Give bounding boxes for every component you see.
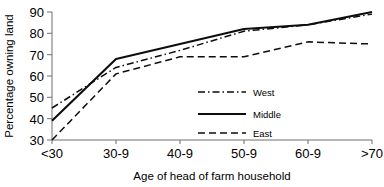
chart-figure: 30 40 50 60 70 80 90 <30 30-9 40-9 50-9 … xyxy=(0,0,384,187)
y-tick-label: 90 xyxy=(30,5,44,20)
series-line-west xyxy=(52,14,372,108)
x-tick-label: <30 xyxy=(41,146,63,161)
series-line-east xyxy=(52,42,372,140)
series-line-middle xyxy=(52,12,372,121)
x-tick-label: >70 xyxy=(361,146,383,161)
x-tick-label: 50-9 xyxy=(231,146,257,161)
x-tick-marks xyxy=(52,140,372,144)
y-tick-label: 50 xyxy=(30,90,44,105)
legend-label-east: East xyxy=(253,128,272,139)
x-tick-labels: <30 30-9 40-9 50-9 60-9 >70 xyxy=(41,146,383,161)
legend-label-middle: Middle xyxy=(253,109,281,120)
y-axis-title: Percentage owning land xyxy=(3,14,15,137)
series-group xyxy=(52,12,372,140)
y-tick-label: 40 xyxy=(30,112,44,127)
x-tick-label: 30-9 xyxy=(103,146,129,161)
y-tick-labels: 30 40 50 60 70 80 90 xyxy=(30,5,44,148)
y-tick-label: 60 xyxy=(30,69,44,84)
x-tick-label: 40-9 xyxy=(167,146,193,161)
y-tick-label: 70 xyxy=(30,48,44,63)
y-tick-label: 80 xyxy=(30,26,44,41)
x-axis-title: Age of head of farm household xyxy=(133,170,290,182)
legend-label-west: West xyxy=(253,87,275,98)
y-tick-marks xyxy=(47,12,52,140)
x-tick-label: 60-9 xyxy=(295,146,321,161)
line-chart: 30 40 50 60 70 80 90 <30 30-9 40-9 50-9 … xyxy=(0,0,384,187)
chart-legend: West Middle East xyxy=(198,87,281,139)
